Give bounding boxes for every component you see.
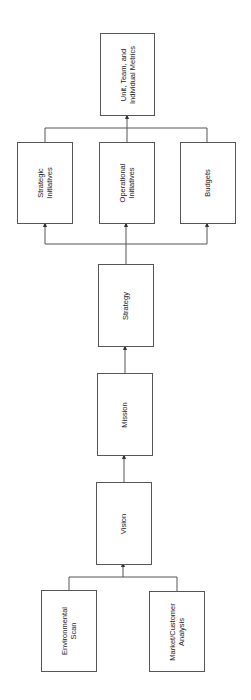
node-label: Unit, Team, and Individual Metrics [119, 46, 136, 104]
node-environmental-scan: Environmental Scan [41, 590, 97, 672]
node-vision: Vision [96, 482, 152, 565]
node-label: Strategic Initiatives [37, 167, 54, 198]
node-label: Environmental Scan [61, 607, 78, 655]
node-metrics: Unit, Team, and Individual Metrics [100, 33, 155, 116]
node-strategic-initiatives: Strategic Initiatives [17, 142, 73, 224]
node-label: Strategy [122, 292, 131, 320]
node-label: Market/Customer Analysis [169, 603, 186, 661]
node-label: Operational Initiatives [119, 164, 136, 203]
node-budgets: Budgets [180, 142, 236, 224]
node-label: Mission [121, 402, 130, 427]
flow-diagram: Unit, Team, and Individual Metrics Strat… [0, 0, 251, 700]
node-strategy: Strategy [98, 264, 154, 347]
node-operational-initiatives: Operational Initiatives [99, 142, 155, 224]
node-label: Budgets [204, 169, 213, 197]
node-label: Vision [120, 513, 129, 533]
node-market-customer-analysis: Market/Customer Analysis [149, 591, 205, 672]
node-mission: Mission [97, 373, 153, 456]
